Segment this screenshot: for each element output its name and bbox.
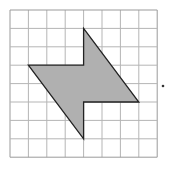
- shaded-polygon: [28, 28, 138, 138]
- grid-diagram: [0, 0, 172, 171]
- dot-marker: [162, 85, 165, 88]
